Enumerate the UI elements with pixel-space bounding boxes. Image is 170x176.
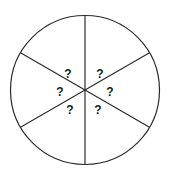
sector-label-top-left: ? — [62, 68, 74, 80]
sector-label-top-right: ? — [94, 68, 106, 80]
sector-label-bottom-left: ? — [64, 104, 76, 116]
sector-label-bottom-right: ? — [92, 104, 104, 116]
figure-canvas — [0, 0, 170, 176]
sector-label-middle-left: ? — [54, 86, 66, 98]
circle-sector-figure: ? ? ? ? ? ? — [0, 0, 170, 176]
sector-label-middle-right: ? — [104, 86, 116, 98]
